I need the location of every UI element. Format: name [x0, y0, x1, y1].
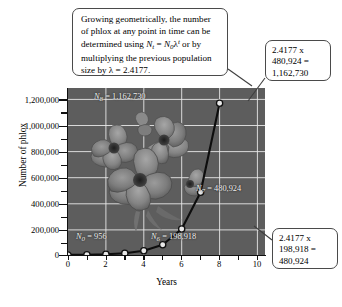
calc-year7-line-1: 2.4177 x: [279, 233, 337, 244]
calc-year8-line-2: 480,924 =: [272, 56, 330, 67]
calc-year8-callout: 2.4177 x 480,924 = 1,162,730: [265, 40, 331, 81]
explanation-line-3-suffix: or by: [180, 39, 201, 49]
formula-equals: =: [154, 39, 164, 49]
figure-phlox-geometric-growth: N0 = 956 N6 = 198,918 N7 = 480,924 N8 = …: [0, 0, 342, 307]
explanation-line-1: Growing geometrically, the number: [81, 14, 220, 26]
explanation-line-5: size by λ = 2.4177.: [81, 65, 220, 77]
explanation-line-5-prefix: size by: [81, 65, 109, 75]
calc-year7-line-3: 480,924: [279, 256, 337, 267]
explanation-line-2: of phlox at any point in time can be: [81, 26, 220, 38]
calc-year8-line-1: 2.4177 x: [272, 45, 330, 56]
lambda-value: = 2.4177.: [113, 65, 150, 75]
calc-year7-callout: 2.4177 x 198,918 = 480,924: [272, 228, 338, 269]
explanation-line-3-prefix: determined using: [81, 39, 146, 49]
calc-year8-line-3: 1,162,730: [272, 68, 330, 79]
explanation-callout: Growing geometrically, the number of phl…: [72, 8, 228, 76]
explanation-line-3: determined using Nt = N0λt or by: [81, 37, 220, 53]
calc-year7-line-2: 198,918 =: [279, 244, 337, 255]
explanation-line-4: multiplying the previous population: [81, 53, 220, 65]
